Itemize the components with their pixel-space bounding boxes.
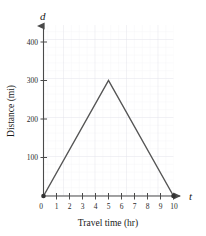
y-tick-100: 100 (27, 153, 39, 162)
x-tick-labels: 0 1 2 3 4 5 6 7 8 9 10 (39, 202, 178, 211)
x-tick-0: 0 (39, 202, 43, 211)
y-tick-300: 300 (27, 76, 39, 85)
x-tick-10: 10 (170, 202, 178, 211)
x-tick-1: 1 (55, 202, 59, 211)
y-axis-variable-label: d (40, 10, 46, 22)
x-tick-4: 4 (94, 202, 98, 211)
chart-figure: 400 300 200 100 0 1 2 3 4 5 6 7 8 9 10 d… (0, 0, 206, 236)
endpoint-marker-start (41, 194, 46, 199)
x-tick-6: 6 (120, 202, 124, 211)
chart-canvas: 400 300 200 100 0 1 2 3 4 5 6 7 8 9 10 d… (0, 0, 206, 236)
x-tick-2: 2 (68, 202, 72, 211)
x-tick-7: 7 (133, 202, 137, 211)
x-tick-8: 8 (146, 202, 150, 211)
x-tick-9: 9 (159, 202, 163, 211)
y-tick-400: 400 (27, 38, 39, 47)
x-axis-title: Travel time (hr) (78, 218, 138, 229)
y-axis-title: Distance (mi) (6, 85, 17, 137)
x-tick-5: 5 (107, 202, 111, 211)
x-tick-3: 3 (81, 202, 85, 211)
plot-grid (44, 25, 174, 196)
y-tick-200: 200 (27, 115, 39, 124)
endpoint-marker-end (171, 194, 176, 199)
y-tick-labels: 400 300 200 100 (27, 38, 39, 163)
x-axis-variable-label: t (189, 190, 193, 202)
